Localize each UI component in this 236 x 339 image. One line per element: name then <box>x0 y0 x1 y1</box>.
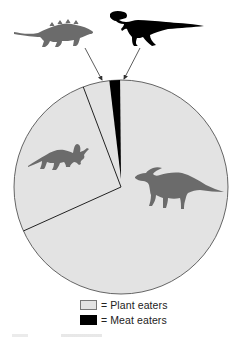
legend-item-meat-eaters: = Meat eaters <box>80 312 167 327</box>
figure-caption-cropped <box>12 334 102 337</box>
ankylosaur-silhouette-icon <box>14 20 93 47</box>
tyrannosaurus-silhouette-icon <box>110 11 204 46</box>
plant-eaters-swatch <box>80 300 97 310</box>
arrow-trex-to-slice <box>124 48 140 79</box>
dinosaur-pie-chart <box>0 0 236 339</box>
legend-item-plant-eaters: = Plant eaters <box>80 297 167 312</box>
arrow-ankylosaur-to-slice <box>85 48 102 80</box>
meat-eaters-swatch <box>80 315 97 325</box>
legend: = Plant eaters = Meat eaters <box>80 297 167 327</box>
legend-label-plant-eaters: = Plant eaters <box>101 299 167 311</box>
legend-label-meat-eaters: = Meat eaters <box>101 314 167 326</box>
